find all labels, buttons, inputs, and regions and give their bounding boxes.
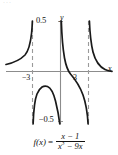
y-axis-tick-label-lower: −0.5 (39, 115, 54, 124)
fraction-denominator: x3 − 9x (56, 142, 85, 151)
x-axis-tick-label-three: 3 (73, 74, 77, 82)
denominator-rest: − 9x (65, 141, 83, 151)
fraction: x − 1 x3 − 9x (56, 132, 85, 151)
rational-function-figure: ··· 0.5 −0.5 −3 3 y (0, 0, 118, 155)
plot-area: 0.5 −0.5 −3 3 y x (0, 0, 118, 128)
function-definition: f(x) = x − 1 x3 − 9x (33, 132, 84, 151)
y-axis-tick-label-upper: 0.5 (36, 16, 46, 25)
function-argument: (x) (36, 137, 46, 147)
equals-sign: = (48, 137, 53, 147)
x-axis-name-label: x (108, 65, 111, 73)
y-axis-name-label: y (60, 14, 63, 22)
plot-svg (0, 0, 118, 128)
x-axis-tick-label-neg-three: −3 (22, 74, 30, 82)
formula-caption: f(x) = x − 1 x3 − 9x (0, 128, 118, 155)
curve-branch-left (6, 21, 32, 65)
